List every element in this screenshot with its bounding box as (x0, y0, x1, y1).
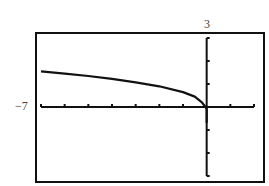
graphing-calculator-plot: −7 3 (0, 0, 269, 186)
function-curve (41, 71, 207, 123)
axes (41, 38, 254, 176)
plot-area (0, 0, 269, 186)
